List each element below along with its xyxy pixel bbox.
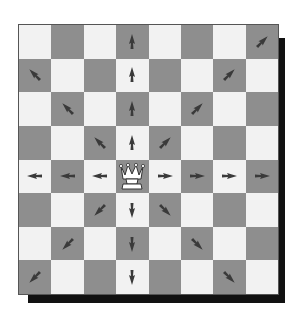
board-square [213, 193, 245, 227]
board-square [149, 59, 181, 93]
board-square [51, 92, 83, 126]
arrow-nw-icon [24, 64, 46, 86]
arrow-n-icon [121, 31, 143, 53]
board-square [149, 92, 181, 126]
arrow-e-icon [186, 165, 208, 187]
board-square [19, 59, 51, 93]
board-square [246, 126, 278, 160]
arrow-se-icon [218, 266, 240, 288]
board-square [19, 260, 51, 294]
board-square [181, 25, 213, 59]
board-square [116, 160, 148, 194]
board-square [181, 260, 213, 294]
arrow-se-icon [154, 199, 176, 221]
board-square [19, 25, 51, 59]
board-square [84, 126, 116, 160]
board-square [213, 59, 245, 93]
arrow-ne-icon [218, 64, 240, 86]
board-square [84, 260, 116, 294]
board-square [181, 126, 213, 160]
arrow-nw-icon [89, 132, 111, 154]
arrow-n-icon [121, 98, 143, 120]
board-square [51, 25, 83, 59]
arrow-s-icon [121, 233, 143, 255]
arrow-w-icon [24, 165, 46, 187]
board-square [213, 227, 245, 261]
board-square [246, 193, 278, 227]
board-square [19, 227, 51, 261]
arrow-ne-icon [186, 98, 208, 120]
board-square [116, 25, 148, 59]
arrow-w-icon [57, 165, 79, 187]
board-square [84, 59, 116, 93]
board-square [84, 160, 116, 194]
board-square [246, 25, 278, 59]
queen-icon [118, 161, 146, 191]
arrow-s-icon [121, 199, 143, 221]
board-square [51, 260, 83, 294]
board-square [181, 92, 213, 126]
board-square [213, 25, 245, 59]
board-square [116, 126, 148, 160]
board-square [213, 92, 245, 126]
board-square [246, 160, 278, 194]
board-square [149, 227, 181, 261]
board-square [181, 160, 213, 194]
board-square [149, 193, 181, 227]
board-square [246, 59, 278, 93]
board-square [181, 193, 213, 227]
board-square [84, 92, 116, 126]
arrow-nw-icon [57, 98, 79, 120]
board-square [19, 92, 51, 126]
board-square [149, 126, 181, 160]
board-square [84, 25, 116, 59]
arrow-sw-icon [57, 233, 79, 255]
board-square [19, 126, 51, 160]
board-square [149, 25, 181, 59]
board-square [181, 227, 213, 261]
board-square [213, 260, 245, 294]
board-square [51, 227, 83, 261]
arrow-ne-icon [154, 132, 176, 154]
arrow-n-icon [121, 132, 143, 154]
arrow-w-icon [89, 165, 111, 187]
board-square [19, 193, 51, 227]
board-square [246, 227, 278, 261]
board-square [246, 260, 278, 294]
board-square [84, 227, 116, 261]
arrow-se-icon [186, 233, 208, 255]
board-square [181, 59, 213, 93]
arrow-e-icon [154, 165, 176, 187]
board-square [19, 160, 51, 194]
board-square [116, 59, 148, 93]
board-square [84, 193, 116, 227]
board-square [149, 160, 181, 194]
board-square [51, 59, 83, 93]
board-square [51, 160, 83, 194]
arrow-n-icon [121, 64, 143, 86]
board-square [116, 92, 148, 126]
arrow-e-icon [218, 165, 240, 187]
chess-board [18, 24, 279, 295]
board-square [116, 260, 148, 294]
arrow-s-icon [121, 266, 143, 288]
arrow-ne-icon [251, 31, 273, 53]
board-square [51, 193, 83, 227]
arrow-sw-icon [89, 199, 111, 221]
board-square [246, 92, 278, 126]
arrow-e-icon [251, 165, 273, 187]
board-square [213, 126, 245, 160]
arrow-sw-icon [24, 266, 46, 288]
board-square [149, 260, 181, 294]
board-square [213, 160, 245, 194]
board-square [51, 126, 83, 160]
board-square [116, 227, 148, 261]
board-square [116, 193, 148, 227]
